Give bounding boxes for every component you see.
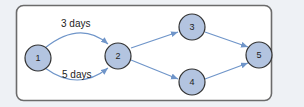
node-2: 2	[105, 43, 131, 69]
node-4: 4	[179, 69, 205, 95]
node-1: 1	[25, 45, 51, 71]
network-diagram: 3 days 5 days 1 2 3 4 5	[0, 0, 304, 107]
node-3: 3	[179, 14, 205, 40]
svg-text:3: 3	[189, 22, 194, 32]
edge-label-bottom: 5 days	[62, 69, 91, 80]
svg-text:5: 5	[256, 50, 261, 60]
svg-text:1: 1	[35, 53, 40, 63]
diagram-panel	[17, 6, 272, 101]
svg-text:2: 2	[115, 51, 120, 61]
node-5: 5	[246, 42, 272, 68]
edge-label-top: 3 days	[61, 18, 90, 29]
svg-text:4: 4	[189, 77, 194, 87]
